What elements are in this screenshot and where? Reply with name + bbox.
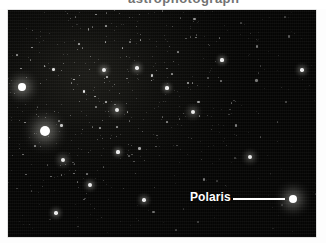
faint-star [153,79,154,80]
medium-star [115,108,120,113]
faint-star [167,77,168,78]
faint-star [16,54,18,56]
faint-star [231,113,232,114]
faint-star [105,25,107,27]
faint-star [137,33,138,34]
faint-star [30,59,31,60]
faint-star [203,178,206,181]
faint-star [75,134,76,135]
faint-star [46,79,47,80]
faint-star [176,145,177,146]
faint-star [277,121,279,123]
faint-star [249,54,250,55]
faint-star [201,159,202,160]
faint-star [179,118,180,119]
faint-star [151,80,153,82]
faint-star [212,125,213,126]
faint-star [39,204,40,205]
faint-star [311,65,312,66]
faint-star [90,150,91,151]
faint-star [73,89,74,90]
faint-star [86,94,87,95]
faint-star [159,155,160,156]
faint-star [146,112,147,113]
faint-star [155,146,156,147]
faint-star [74,62,75,63]
faint-star [31,47,33,49]
faint-star [166,121,168,123]
faint-star [149,39,150,40]
faint-star [264,69,265,70]
faint-star [126,78,127,79]
faint-star [218,77,219,78]
faint-star [174,175,175,176]
faint-star [264,88,265,89]
faint-star [37,106,38,107]
faint-star [180,17,181,18]
faint-star [153,134,154,135]
faint-star [93,90,94,91]
faint-star [197,85,198,86]
faint-star [79,12,80,13]
faint-star [301,38,302,39]
faint-star [173,145,174,146]
faint-star [212,194,213,195]
faint-star [73,164,74,165]
faint-star [61,70,62,71]
faint-star [171,127,172,128]
faint-star [197,22,198,23]
faint-star [227,30,228,31]
faint-star [140,34,141,35]
faint-star [85,63,86,64]
faint-star [211,68,212,69]
faint-star [9,83,10,84]
medium-star [248,155,252,159]
faint-star [67,13,68,14]
faint-star [102,138,103,139]
faint-star [211,116,212,117]
faint-star [165,94,166,95]
faint-star [89,122,90,123]
faint-star [88,28,90,30]
faint-star [178,64,179,65]
faint-star [26,77,27,78]
faint-star [258,178,259,179]
faint-star [183,208,184,209]
faint-star [54,177,55,178]
faint-star [78,43,80,45]
faint-star [148,210,149,211]
faint-star [156,70,157,71]
faint-star [40,31,41,32]
faint-star [46,113,47,114]
faint-star [86,99,87,100]
faint-star [188,87,189,88]
faint-star [123,188,124,189]
faint-star [36,133,37,134]
faint-star [103,166,104,167]
faint-star [132,90,133,91]
faint-star [223,197,224,198]
faint-star [256,45,259,48]
faint-star [38,116,39,117]
faint-star [42,186,43,187]
faint-star [20,68,22,70]
faint-star [224,25,225,26]
faint-star [135,173,136,174]
faint-star [198,21,199,22]
faint-star [120,134,121,135]
faint-star [235,101,236,102]
medium-star [61,158,65,162]
faint-star [120,221,121,222]
faint-star [19,144,20,145]
faint-star [116,26,117,27]
faint-star [298,223,299,224]
faint-star [111,23,112,24]
faint-star [74,163,75,164]
faint-star [77,226,78,227]
faint-star [226,186,227,187]
faint-star [207,115,208,116]
faint-star [236,135,237,136]
faint-star [49,68,50,69]
faint-star [106,12,107,13]
faint-star [88,152,89,153]
